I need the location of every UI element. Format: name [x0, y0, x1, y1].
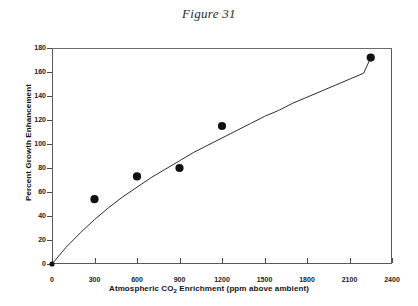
x-axis-tick — [392, 258, 393, 263]
chart-data-layer — [52, 48, 392, 264]
y-axis-title: Percent Growth Enhancement — [24, 53, 33, 233]
x-axis-tick-label-text: 600 — [131, 276, 143, 283]
x-axis-tick-label-text: 1200 — [214, 276, 230, 283]
x-axis-title: Atmospheric CO2 Enrichment (ppm above am… — [0, 284, 418, 293]
x-axis-tick-label-text: 900 — [174, 276, 186, 283]
data-point — [218, 122, 226, 130]
x-axis-tick-label-text: 1800 — [299, 276, 315, 283]
data-point — [367, 54, 375, 62]
y-axis-tick-label-text: 20 — [4, 236, 46, 243]
page-title: Figure 31 — [0, 6, 418, 22]
x-axis-tick-label-text: 0 — [50, 276, 54, 283]
y-axis-tick-label: 0 — [0, 260, 46, 268]
y-axis-tick-label: 20 — [0, 236, 46, 244]
data-point — [49, 261, 54, 266]
y-axis-tick-label-text: 180 — [4, 44, 46, 51]
data-point-markers — [49, 54, 374, 267]
x-axis-title-subscript: 2 — [174, 288, 177, 294]
x-axis-tick-label-text: 2400 — [384, 276, 400, 283]
x-axis-tick-label-text: 300 — [89, 276, 101, 283]
fitted-curve — [52, 58, 371, 264]
y-axis-tick-label-text: 0 — [4, 260, 46, 267]
data-point — [175, 164, 183, 172]
x-axis-tick-label-text: 2100 — [342, 276, 358, 283]
data-point — [90, 195, 98, 203]
figure-page: Figure 31 020406080100120140160180 03006… — [0, 0, 418, 306]
x-axis-title-prefix: Atmospheric CO — [109, 284, 174, 293]
x-axis-title-suffix: Enrichment (ppm above ambient) — [177, 284, 309, 293]
data-point — [133, 172, 141, 180]
x-axis-tick-label-text: 1500 — [257, 276, 273, 283]
y-axis-tick-label: 180 — [0, 44, 46, 52]
